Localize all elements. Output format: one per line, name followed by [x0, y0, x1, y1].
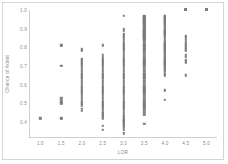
scatter-point	[164, 69, 166, 71]
scatter-point	[164, 74, 166, 76]
y-tick-label: 0.8	[20, 45, 27, 50]
scatter-point	[81, 110, 83, 112]
y-tick-label: 0.5	[20, 101, 27, 106]
scatter-point	[81, 50, 83, 52]
scatter-point	[143, 123, 145, 125]
x-tick-label: 3.0	[120, 141, 127, 146]
scatter-point	[205, 9, 207, 11]
x-tick-label: 4.5	[182, 141, 189, 146]
scatter-point	[185, 50, 187, 52]
x-tick-label: 4.0	[162, 141, 169, 146]
scatter-point	[122, 29, 124, 31]
scatter-point	[122, 132, 124, 134]
scatter-point	[60, 65, 62, 67]
scatter-point	[185, 74, 187, 76]
scatter-point	[60, 117, 62, 119]
x-tick-label: 1.5	[58, 141, 65, 146]
scatter-point	[102, 117, 104, 119]
scatter-point	[122, 14, 124, 16]
scatter-point	[122, 125, 124, 127]
x-axis-title: LOR	[29, 150, 217, 155]
scatter-point	[143, 113, 145, 115]
scatter-points-layer	[30, 10, 217, 137]
y-tick-label: 0.4	[20, 120, 27, 125]
scatter-point	[185, 61, 187, 63]
scatter-point	[102, 128, 104, 130]
y-tick-label: 0.6	[20, 82, 27, 87]
scatter-point	[102, 125, 104, 127]
scatter-point	[164, 89, 166, 91]
x-tick-label: 3.5	[141, 141, 148, 146]
scatter-point	[164, 98, 166, 100]
scatter-point	[60, 102, 62, 104]
plot-area: 1.00.90.80.70.60.50.4 1.01.52.02.53.03.5…	[29, 10, 217, 138]
scatter-point	[60, 44, 62, 46]
scatter-point	[39, 117, 41, 119]
y-tick-label: 1.0	[20, 8, 27, 13]
x-tick-label: 5.0	[203, 141, 210, 146]
chart-figure: 1.00.90.80.70.60.50.4 1.01.52.02.53.03.5…	[0, 0, 228, 164]
scatter-point	[122, 128, 124, 130]
scatter-point	[185, 55, 187, 57]
y-tick-label: 0.7	[20, 64, 27, 69]
x-tick-label: 2.5	[99, 141, 106, 146]
y-tick-label: 0.9	[20, 26, 27, 31]
scatter-point	[164, 33, 166, 35]
x-tick-label: 2.0	[78, 141, 85, 146]
y-axis-title: Chance of Admit	[5, 10, 15, 138]
scatter-point	[185, 9, 187, 11]
scatter-point	[102, 44, 104, 46]
x-tick-label: 1.0	[37, 141, 44, 146]
scatter-point	[81, 104, 83, 106]
scatter-point	[143, 39, 145, 41]
